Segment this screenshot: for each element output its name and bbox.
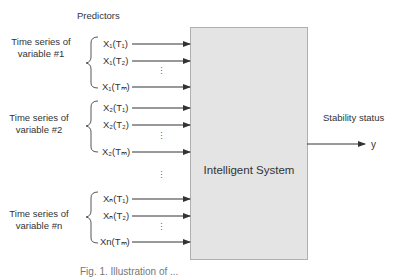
brace-icon <box>86 101 98 152</box>
brace-icon <box>86 37 98 88</box>
figure-caption: Fig. 1. Illustration of ... <box>80 266 178 277</box>
brace-icon <box>86 192 98 243</box>
